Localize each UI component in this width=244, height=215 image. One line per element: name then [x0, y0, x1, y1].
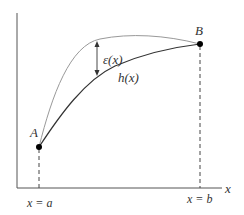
point-b [197, 41, 203, 47]
error-label: ε(x) [103, 52, 123, 67]
approximation-error-diagram: A B ε(x) h(x) x x = a x = b [0, 0, 244, 215]
point-b-label: B [195, 23, 203, 38]
bound-a-label: x = a [26, 196, 52, 210]
arrow-head-down-icon [95, 70, 100, 76]
point-a [36, 144, 42, 150]
bound-b-label: x = b [186, 192, 212, 206]
point-a-label: A [29, 125, 38, 140]
x-axis-label: x [224, 181, 231, 196]
arrow-head-up-icon [95, 41, 100, 47]
h-curve-label: h(x) [118, 70, 139, 85]
